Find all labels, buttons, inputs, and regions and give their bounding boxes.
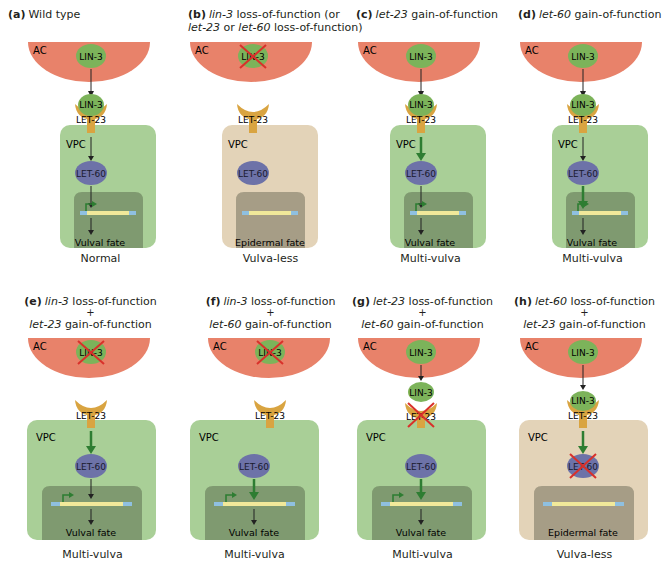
- svg-text:VPC: VPC: [396, 139, 416, 150]
- phenotype-label: Multi-vulva: [10, 548, 175, 561]
- svg-text:LET-60: LET-60: [406, 462, 436, 472]
- svg-text:LET-60: LET-60: [76, 169, 106, 179]
- svg-text:AC: AC: [525, 45, 539, 56]
- phenotype-label: Multi-vulva: [340, 548, 505, 561]
- fate-label: Vulval fate: [567, 237, 618, 248]
- pathway-diagram: AC LIN-3 LIN-3 LET-23 VPC LET-60 Vulval …: [0, 0, 165, 286]
- phenotype-label: Vulva-less: [502, 548, 666, 561]
- gene-bar: [51, 502, 132, 506]
- gene-bar: [572, 211, 628, 215]
- svg-text:AC: AC: [195, 45, 209, 56]
- svg-text:LIN-3: LIN-3: [571, 348, 594, 358]
- svg-text:LIN-3: LIN-3: [571, 396, 594, 406]
- fate-label: Vulval fate: [75, 237, 126, 248]
- pathway-diagram: AC LIN-3 LET-23 VPC LET-60 Vulval fate: [0, 290, 165, 573]
- svg-text:LIN-3: LIN-3: [571, 52, 594, 62]
- panel-a-wild-type: (a)Wild type AC LIN-3 LIN-3 LET-23 VPC L…: [0, 0, 165, 286]
- fate-label: Vulval fate: [396, 527, 447, 538]
- gene-bar: [543, 502, 624, 506]
- svg-text:LET-23: LET-23: [568, 411, 598, 421]
- svg-text:VPC: VPC: [36, 432, 56, 443]
- svg-text:VPC: VPC: [558, 139, 578, 150]
- pathway-diagram: AC LIN-3 LIN-3 LET-23 VPC LET-60 Vulval …: [330, 0, 495, 286]
- panel-g-let23-loss-let60-gain: (g)let-23 loss-of-function + let-60 gain…: [330, 290, 495, 573]
- gene-bar: [381, 502, 462, 506]
- pathway-diagram: AC LIN-3 LET-23 VPC LET-60 Vulval fate: [162, 290, 327, 573]
- pathway-diagram: AC LIN-3 LIN-3 LET-23 VPC LET-60 Epiderm…: [492, 290, 657, 573]
- pathway-diagram: AC LIN-3 LET-23 VPC LET-60 Epidermal fat…: [162, 0, 327, 286]
- fate-label: Epidermal fate: [235, 237, 305, 248]
- svg-text:AC: AC: [363, 45, 377, 56]
- gene-bar: [242, 211, 298, 215]
- fate-label: Vulval fate: [229, 527, 280, 538]
- svg-text:LIN-3: LIN-3: [79, 52, 102, 62]
- svg-text:VPC: VPC: [366, 432, 386, 443]
- fate-label: Vulval fate: [66, 527, 117, 538]
- svg-text:VPC: VPC: [228, 139, 248, 150]
- svg-text:LET-23: LET-23: [568, 115, 598, 125]
- svg-text:LET-60: LET-60: [239, 462, 269, 472]
- fate-label: Epidermal fate: [548, 527, 618, 538]
- fate-label: Vulval fate: [405, 237, 456, 248]
- phenotype-label: Multi-vulva: [172, 548, 337, 561]
- svg-text:LET-23: LET-23: [406, 412, 436, 422]
- phenotype-label: Multi-vulva: [348, 252, 513, 265]
- svg-text:AC: AC: [525, 341, 539, 352]
- phenotype-label: Vulva-less: [188, 252, 353, 265]
- ac-label: AC: [33, 45, 47, 56]
- gene-bar: [214, 502, 295, 506]
- panel-e-lin3-loss-let23-gain: (e)lin-3 loss-of-function + let-23 gain-…: [0, 290, 165, 573]
- panel-b-lin3-loss: (b)lin-3 loss-of-function (or let-23 or …: [162, 0, 327, 286]
- svg-text:LET-23: LET-23: [76, 411, 106, 421]
- svg-text:AC: AC: [213, 341, 227, 352]
- svg-text:VPC: VPC: [528, 432, 548, 443]
- panel-f-lin3-loss-let60-gain: (f)lin-3 loss-of-function + let-60 gain-…: [162, 290, 327, 573]
- svg-text:LET-23: LET-23: [406, 115, 436, 125]
- svg-text:VPC: VPC: [199, 432, 219, 443]
- phenotype-label: Normal: [18, 252, 183, 265]
- svg-text:LET-60: LET-60: [406, 169, 436, 179]
- phenotype-label: Multi-vulva: [510, 252, 666, 265]
- svg-text:LET-60: LET-60: [76, 462, 106, 472]
- svg-text:LIN-3: LIN-3: [79, 100, 102, 110]
- gene-bar: [410, 211, 466, 215]
- panel-c-let23-gain: (c)let-23 gain-of-function AC LIN-3 LIN-…: [330, 0, 495, 286]
- svg-text:VPC: VPC: [66, 139, 86, 150]
- svg-text:LIN-3: LIN-3: [409, 100, 432, 110]
- pathway-diagram: AC LIN-3 LIN-3 LET-23 VPC LET-60 Vulval …: [330, 290, 495, 573]
- svg-text:LET-60: LET-60: [568, 169, 598, 179]
- panel-h-let60-loss-let23-gain: (h)let-60 loss-of-function + let-23 gain…: [492, 290, 657, 573]
- svg-text:AC: AC: [363, 341, 377, 352]
- svg-text:AC: AC: [33, 341, 47, 352]
- svg-text:LET-23: LET-23: [255, 411, 285, 421]
- gene-bar: [80, 211, 136, 215]
- pathway-diagram: AC LIN-3 LIN-3 LET-23 VPC LET-60 Vulval …: [492, 0, 657, 286]
- svg-text:LET-23: LET-23: [76, 115, 106, 125]
- svg-text:LET-60: LET-60: [238, 169, 268, 179]
- svg-text:LIN-3: LIN-3: [409, 52, 432, 62]
- svg-text:LIN-3: LIN-3: [409, 388, 432, 398]
- svg-text:LET-23: LET-23: [238, 115, 268, 125]
- panel-d-let60-gain: (d)let-60 gain-of-function AC LIN-3 LIN-…: [492, 0, 657, 286]
- svg-text:LIN-3: LIN-3: [409, 348, 432, 358]
- svg-text:LIN-3: LIN-3: [571, 100, 594, 110]
